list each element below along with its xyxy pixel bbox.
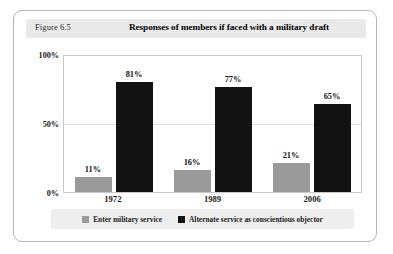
bar-1972-enter-military-service[interactable]: [75, 177, 112, 192]
figure-card: Figure 6.5 Responses of members if faced…: [13, 10, 377, 242]
bar-value-1989-enter-military-service: 16%: [184, 158, 201, 167]
bar-2006-enter-military-service[interactable]: [273, 163, 310, 192]
bar-value-1972-alternate-service: 81%: [126, 70, 143, 79]
legend-label-alternate-service: Alternate service as conscientious objec…: [189, 215, 323, 224]
bar-wrap-2006-alternate-service: 65%: [314, 56, 351, 192]
y-axis: 100% 50% 0%: [26, 47, 62, 197]
y-axis-tick-100: 100%: [39, 51, 59, 60]
bar-value-1989-alternate-service: 77%: [225, 75, 242, 84]
bar-group-2006: 21% 65%: [267, 56, 356, 192]
legend-item-alternate-service: Alternate service as conscientious objec…: [178, 215, 323, 224]
figure-number-label: Figure 6.5: [35, 22, 71, 32]
bar-1972-alternate-service[interactable]: [116, 82, 153, 192]
legend: Enter military service Alternate service…: [51, 209, 354, 229]
legend-label-enter-military-service: Enter military service: [93, 215, 162, 224]
x-axis-label-1989: 1989: [168, 194, 258, 208]
x-axis-label-1972: 1972: [68, 194, 158, 208]
bar-wrap-1972-enter-military-service: 11%: [75, 56, 112, 192]
y-axis-tick-0: 0%: [47, 189, 59, 198]
figure-header-band: Figure 6.5 Responses of members if faced…: [26, 19, 366, 38]
bar-value-2006-alternate-service: 65%: [324, 92, 341, 101]
bar-wrap-1989-enter-military-service: 16%: [174, 56, 211, 192]
x-axis-label-2006: 2006: [267, 194, 357, 208]
y-axis-tick-50: 50%: [43, 120, 59, 129]
bar-2006-alternate-service[interactable]: [314, 104, 351, 192]
bar-1989-enter-military-service[interactable]: [174, 170, 211, 192]
plot-area: 11% 81% 16% 77%: [63, 55, 362, 193]
bar-groups: 11% 81% 16% 77%: [64, 56, 361, 192]
bar-wrap-1972-alternate-service: 81%: [116, 56, 153, 192]
bar-group-1989: 16% 77%: [168, 56, 257, 192]
legend-item-enter-military-service: Enter military service: [82, 215, 162, 224]
bar-value-2006-enter-military-service: 21%: [283, 151, 300, 160]
chart-region: 100% 50% 0% 11% 81%: [26, 47, 366, 207]
bar-value-1972-enter-military-service: 11%: [85, 165, 101, 174]
legend-swatch-icon-enter-military-service: [82, 216, 89, 223]
bar-wrap-1989-alternate-service: 77%: [215, 56, 252, 192]
legend-swatch-icon-alternate-service: [178, 216, 185, 223]
bar-1989-alternate-service[interactable]: [215, 87, 252, 192]
x-axis: 1972 1989 2006: [63, 194, 362, 208]
figure-title: Responses of members if faced with a mil…: [96, 22, 362, 32]
bar-wrap-2006-enter-military-service: 21%: [273, 56, 310, 192]
legend-items: Enter military service Alternate service…: [51, 209, 354, 229]
bar-group-1972: 11% 81%: [69, 56, 158, 192]
